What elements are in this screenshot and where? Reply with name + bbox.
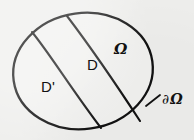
boundary-leader-line bbox=[146, 95, 160, 106]
region-label-d: D bbox=[87, 57, 98, 72]
figure-canvas: Ω D D' ∂Ω bbox=[0, 0, 194, 140]
boundary-label-partial-omega: ∂Ω bbox=[162, 92, 183, 106]
region-label-omega: Ω bbox=[114, 42, 127, 57]
boundary-omega-symbol: Ω bbox=[169, 91, 182, 107]
region-label-d-prime: D' bbox=[41, 79, 55, 94]
